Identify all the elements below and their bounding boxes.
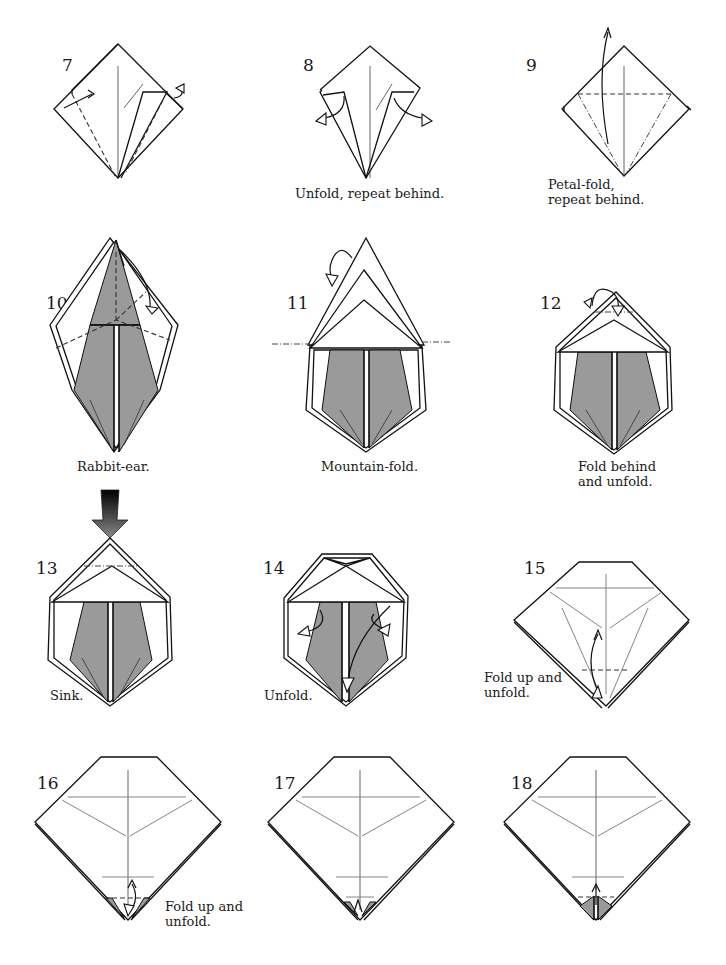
caption-line: Fold up and bbox=[165, 899, 243, 914]
step-7-diagram bbox=[0, 0, 242, 230]
step-17: 17 bbox=[242, 740, 484, 965]
caption-line: unfold. bbox=[484, 685, 562, 700]
step-16-diagram bbox=[0, 740, 242, 965]
step-18: 18 bbox=[484, 740, 726, 965]
step-9: 9 Petal-fold, repeat behind. bbox=[484, 0, 726, 230]
step-12-diagram bbox=[484, 230, 726, 480]
caption-line: Fold behind bbox=[578, 459, 656, 474]
step-12: 12 Fold behind and unfold. bbox=[484, 230, 726, 480]
step-13: 13 Sink. bbox=[0, 480, 242, 730]
step-caption: Mountain-fold. bbox=[321, 459, 418, 474]
caption-line: Petal-fold, bbox=[548, 177, 644, 192]
step-caption: Fold up and unfold. bbox=[165, 899, 243, 929]
step-caption: Petal-fold, repeat behind. bbox=[548, 177, 644, 207]
step-10-diagram bbox=[0, 230, 242, 480]
caption-line: Fold up and bbox=[484, 670, 562, 685]
step-caption: Rabbit-ear. bbox=[77, 459, 150, 474]
step-13-diagram bbox=[0, 480, 242, 730]
step-caption: Unfold. bbox=[264, 688, 313, 703]
step-11: 11 Mountain-fold. bbox=[242, 230, 484, 480]
step-15: 15 Fold up and unfold. bbox=[484, 480, 726, 730]
step-16: 16 Fold up and unfold. bbox=[0, 740, 242, 965]
step-caption: Unfold, repeat behind. bbox=[295, 186, 444, 201]
step-11-diagram bbox=[242, 230, 484, 480]
step-10: 10 Rabbit-ear. bbox=[0, 230, 242, 480]
step-8: 8 Unfold, repeat behind. bbox=[242, 0, 484, 230]
sink-arrow-icon bbox=[92, 490, 128, 538]
step-caption: Sink. bbox=[50, 688, 83, 703]
step-caption: Fold up and unfold. bbox=[484, 670, 562, 700]
step-7: 7 bbox=[0, 0, 242, 230]
caption-line: repeat behind. bbox=[548, 192, 644, 207]
step-14: 14 Unfold. bbox=[242, 480, 484, 730]
step-17-diagram bbox=[242, 740, 484, 965]
step-18-diagram bbox=[484, 740, 726, 965]
caption-line: unfold. bbox=[165, 914, 243, 929]
